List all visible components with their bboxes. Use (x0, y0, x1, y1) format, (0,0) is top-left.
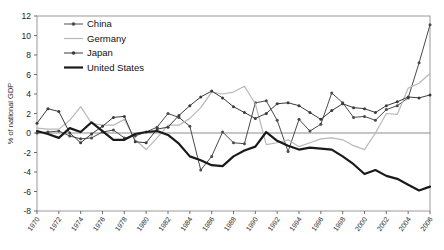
series-marker-china (210, 155, 213, 158)
x-tick-label: 1996 (310, 215, 325, 232)
x-tick-label: 1982 (157, 215, 172, 232)
series-marker-japan (79, 141, 82, 144)
y-tick-label: 12 (22, 11, 32, 21)
y-tick-label: -6 (23, 187, 31, 197)
series-marker-china (276, 119, 279, 122)
series-marker-japan (243, 111, 246, 114)
series-marker-japan (385, 104, 388, 107)
series-marker-china (319, 123, 322, 126)
x-tick-label: 1988 (223, 215, 238, 232)
legend-swatch-marker (72, 51, 76, 55)
plot-area-frame (37, 16, 430, 211)
series-marker-china (385, 108, 388, 111)
x-tick-label: 1986 (201, 215, 216, 232)
series-marker-china (418, 61, 421, 64)
y-tick-label: -4 (23, 167, 31, 177)
y-tick-label: 10 (22, 31, 32, 41)
series-marker-japan (68, 132, 71, 135)
series-marker-japan (188, 104, 191, 107)
series-marker-china (265, 99, 268, 102)
series-marker-china (330, 92, 333, 95)
series-marker-china (79, 137, 82, 140)
series-marker-japan (167, 126, 170, 129)
x-tick-label: 1992 (266, 215, 281, 232)
x-tick-label: 1998 (332, 215, 347, 232)
x-tick-label: 1984 (179, 215, 194, 232)
series-marker-china (112, 129, 115, 132)
series-marker-japan (57, 110, 60, 113)
series-marker-china (243, 142, 246, 145)
series-marker-japan (298, 104, 301, 107)
x-tick-label: 1976 (92, 215, 107, 232)
series-marker-japan (352, 106, 355, 109)
series-marker-china (396, 104, 399, 107)
x-tick-label: 1978 (113, 215, 128, 232)
series-marker-japan (46, 107, 49, 110)
series-marker-china (352, 116, 355, 119)
series-marker-japan (341, 102, 344, 105)
series-marker-japan (407, 95, 410, 98)
series-marker-japan (123, 115, 126, 118)
series-marker-china (188, 125, 191, 128)
x-tick-label: 1980 (135, 215, 150, 232)
x-tick-label: 2006 (419, 215, 434, 232)
series-marker-japan (319, 118, 322, 121)
x-tick-label: 1990 (244, 215, 259, 232)
series-marker-japan (330, 109, 333, 112)
series-marker-japan (177, 114, 180, 117)
chart-container: 121086420-2-4-6-8% of national GDP197019… (0, 0, 444, 250)
y-tick-label: 0 (26, 128, 31, 138)
series-marker-china (308, 130, 311, 133)
series-marker-japan (199, 95, 202, 98)
y-axis-title: % of national GDP (6, 83, 15, 145)
series-marker-japan (90, 132, 93, 135)
legend-label: Japan (87, 47, 113, 58)
series-marker-china (287, 150, 290, 153)
x-tick-label: 1970 (26, 215, 41, 232)
series-marker-china (221, 131, 224, 134)
y-tick-label: 6 (26, 70, 31, 80)
x-tick-label: 2004 (397, 215, 412, 232)
series-marker-japan (134, 140, 137, 143)
series-marker-japan (396, 100, 399, 103)
legend-label: United States (87, 62, 144, 73)
series-marker-china (232, 141, 235, 144)
x-tick-label: 1994 (288, 215, 303, 232)
series-marker-japan (265, 112, 268, 115)
series-marker-japan (418, 96, 421, 99)
series-marker-china (90, 136, 93, 139)
series-marker-china (68, 134, 71, 137)
series-marker-china (298, 118, 301, 121)
y-tick-label: -2 (23, 148, 31, 158)
y-tick-label: 4 (26, 89, 31, 99)
y-tick-label: 8 (26, 50, 31, 60)
series-marker-japan (210, 90, 213, 93)
series-marker-china (363, 115, 366, 118)
series-marker-japan (276, 102, 279, 105)
series-marker-japan (101, 125, 104, 128)
series-marker-japan (287, 101, 290, 104)
series-marker-japan (363, 107, 366, 110)
x-tick-label: 1974 (70, 215, 85, 232)
y-tick-label: -8 (23, 206, 31, 216)
series-marker-japan (145, 141, 148, 144)
legend-swatch-marker (72, 22, 76, 26)
x-tick-label: 1972 (48, 215, 63, 232)
series-marker-japan (112, 116, 115, 119)
y-tick-label: 2 (26, 109, 31, 119)
gdp-line-chart: 121086420-2-4-6-8% of national GDP197019… (0, 0, 444, 250)
series-marker-china (167, 112, 170, 115)
series-marker-china (374, 119, 377, 122)
series-marker-japan (36, 122, 39, 125)
series-marker-china (57, 130, 60, 133)
legend-label: Germany (87, 33, 126, 44)
series-marker-japan (221, 96, 224, 99)
series-marker-japan (374, 111, 377, 114)
series-marker-japan (254, 117, 257, 120)
series-marker-china (429, 23, 432, 26)
series-marker-japan (308, 111, 311, 114)
x-tick-label: 2000 (354, 215, 369, 232)
x-tick-label: 2002 (375, 215, 390, 232)
series-marker-japan (429, 93, 432, 96)
series-marker-china (199, 169, 202, 172)
